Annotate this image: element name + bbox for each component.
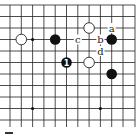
- letter-marker-d: d: [97, 46, 104, 57]
- star-point: [99, 107, 102, 110]
- star-point: [31, 107, 34, 110]
- black-stone: [106, 69, 117, 80]
- go-board: abcd 1: [0, 0, 139, 136]
- star-point: [31, 38, 34, 41]
- black-stone: [50, 34, 61, 45]
- letter-marker-b: b: [97, 34, 103, 45]
- move-number: 1: [64, 59, 70, 68]
- black-stone: [106, 34, 117, 45]
- letter-marker-c: c: [75, 34, 81, 45]
- white-stone: [16, 34, 27, 45]
- white-stone: [84, 57, 95, 68]
- letter-marker-a: a: [109, 23, 115, 34]
- diagram-caption-marker: [5, 132, 13, 134]
- white-stone: [84, 23, 95, 34]
